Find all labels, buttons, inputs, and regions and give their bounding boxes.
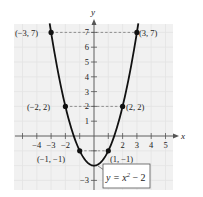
x-tick-label: −3 <box>47 140 56 150</box>
y-axis-arrow-icon <box>92 19 97 25</box>
x-axis-label: x <box>180 131 185 141</box>
parabola-plot: x y −4−3−223457654321−3 (−3, 7) (3, 7) (… <box>0 0 203 197</box>
point-label-m2-2: (−2, 2) <box>27 102 50 112</box>
data-point <box>120 104 125 109</box>
y-tick-label: −3 <box>80 175 89 185</box>
data-point <box>63 104 68 109</box>
x-tick-label: 3 <box>135 140 139 150</box>
y-tick-label: 6 <box>85 42 89 52</box>
x-tick-label: 4 <box>149 140 154 150</box>
y-tick-label: 7 <box>85 27 89 37</box>
data-point <box>49 30 54 35</box>
data-point <box>77 148 82 153</box>
y-tick-label: 2 <box>85 101 89 111</box>
equation-label: y = x2 − 2 <box>105 171 146 183</box>
x-tick-label: 2 <box>120 140 124 150</box>
point-label-3-7: (3, 7) <box>139 28 158 38</box>
point-label-m3-7: (−3, 7) <box>15 28 38 38</box>
point-label-1-m1: (1, −1) <box>110 154 133 164</box>
x-tick-label: −2 <box>61 140 70 150</box>
point-label-2-2: (2, 2) <box>126 102 145 112</box>
point-label-m1-m1: (−1, −1) <box>37 154 65 164</box>
y-axis-label: y <box>90 7 95 17</box>
y-tick-label: 3 <box>85 87 89 97</box>
data-point <box>106 148 111 153</box>
y-tick-label: 1 <box>85 116 89 126</box>
x-tick-label: 5 <box>163 140 167 150</box>
x-axis-arrow-icon <box>173 134 179 139</box>
y-tick-label: 5 <box>85 57 89 67</box>
x-tick-label: −4 <box>32 140 42 150</box>
